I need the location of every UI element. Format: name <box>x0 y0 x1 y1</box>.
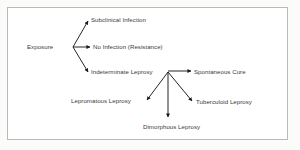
edge-indeterminate-to-lepromatous <box>147 72 168 100</box>
node-label-spontaneous-cure: Spontaneous Cure <box>194 68 246 76</box>
node-label-exposure: Exposure <box>27 43 53 51</box>
node-label-indeterminate-leprosy: Indeterminate Leprosy <box>91 68 153 76</box>
node-label-subclinical-infection: Subclinical Infection <box>91 16 146 24</box>
diagram-screenshot: Exposure Subclinical Infection No Infect… <box>0 0 300 150</box>
node-label-no-infection: No Infection (Resistance) <box>93 43 163 51</box>
edge-indeterminate-to-tuberculoid <box>168 72 192 101</box>
edge-exposure-to-indeterminate <box>73 47 88 72</box>
node-label-tuberculoid-leprosy: Tuberculoid Leprosy <box>196 98 252 106</box>
edge-exposure-to-subclinical <box>73 21 88 47</box>
node-label-lepromatous-leprosy: Lepromatous Leprosy <box>71 97 131 105</box>
node-label-dimorphous-leprosy: Dimorphous Leprosy <box>143 123 200 131</box>
